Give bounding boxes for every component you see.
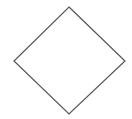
diagram-canvas [0, 0, 132, 119]
diamond-shape [14, 7, 125, 114]
diagram-svg [0, 0, 132, 119]
